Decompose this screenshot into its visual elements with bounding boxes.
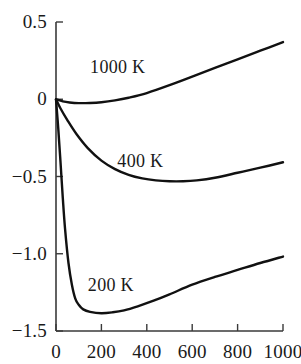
- y-tick-label: 0: [37, 89, 47, 108]
- x-axis-ticks: [56, 324, 283, 331]
- series-label-400-k: 400 K: [117, 152, 163, 170]
- chart-figure: 0.50−0.5−1.0−1.5 02004006008001000 1000 …: [0, 0, 301, 364]
- y-tick-label: −0.5: [12, 167, 47, 186]
- y-tick-label: −1.0: [12, 244, 47, 263]
- series-label-1000-k: 1000 K: [90, 58, 145, 76]
- y-tick-label: −1.5: [12, 321, 47, 340]
- x-tick-label: 1000: [243, 342, 301, 361]
- series-curve-400-k: [56, 99, 283, 181]
- data-series-group: [56, 42, 283, 313]
- y-tick-label: 0.5: [23, 12, 47, 31]
- series-label-200-k: 200 K: [88, 276, 134, 294]
